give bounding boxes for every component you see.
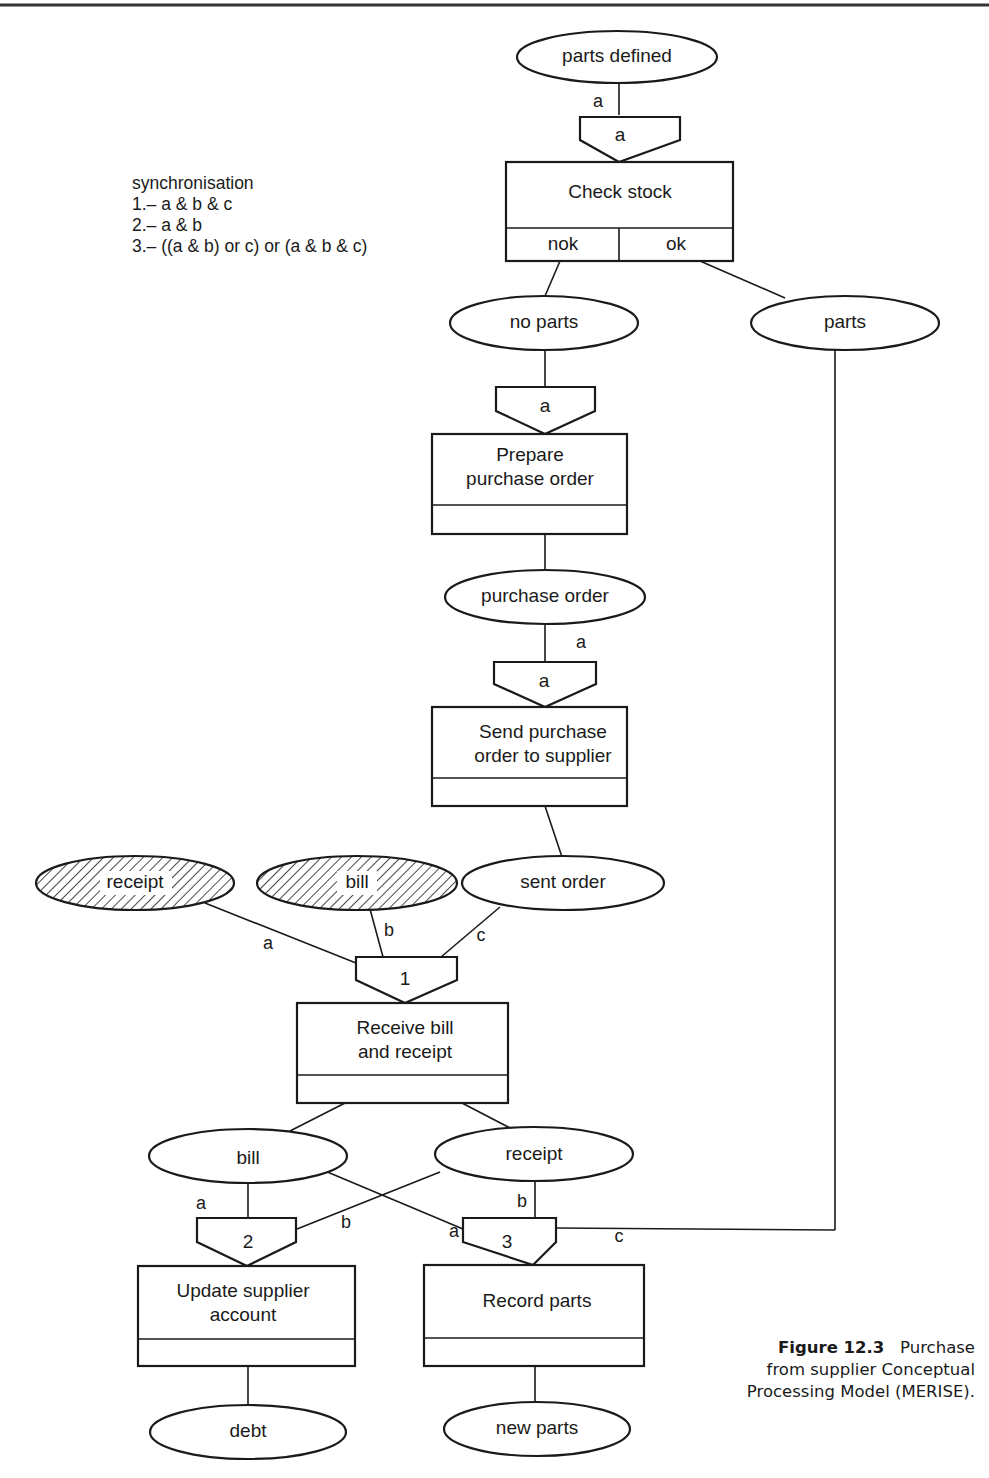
svg-text:sent order: sent order — [520, 871, 606, 892]
event-sent-order: sent order — [462, 856, 664, 910]
svg-text:Send purchase: Send purchase — [479, 721, 607, 742]
svg-text:Update supplier: Update supplier — [176, 1280, 310, 1301]
svg-text:c: c — [615, 1226, 624, 1246]
svg-text:parts: parts — [824, 311, 866, 332]
figure-caption: Figure 12.3 Purchase from supplier Conce… — [690, 1337, 975, 1403]
synchronisation-legend: synchronisation 1.– a & b & c 2.– a & b … — [132, 173, 367, 257]
svg-text:order to supplier: order to supplier — [474, 745, 612, 766]
operation-record-parts: Record parts — [424, 1265, 644, 1366]
operation-receive-bill-receipt: Receive bill and receipt — [297, 1003, 508, 1103]
svg-text:receipt: receipt — [505, 1143, 563, 1164]
event-receipt: receipt — [435, 1127, 633, 1181]
operation-check-stock: Check stock nok ok — [506, 162, 733, 261]
svg-text:Check stock: Check stock — [568, 181, 672, 202]
sync-2-update: 2 — [197, 1218, 296, 1266]
svg-text:bill: bill — [345, 871, 368, 892]
event-purchase-order: purchase order — [445, 570, 645, 624]
event-bill-external: bill — [257, 856, 457, 910]
svg-text:bill: bill — [236, 1147, 259, 1168]
svg-text:parts defined: parts defined — [562, 45, 672, 66]
legend-title: synchronisation — [132, 173, 367, 194]
event-no-parts: no parts — [450, 296, 638, 350]
svg-text:Prepare: Prepare — [496, 444, 564, 465]
svg-text:purchase order: purchase order — [481, 585, 609, 606]
event-bill: bill — [149, 1129, 347, 1183]
svg-text:and receipt: and receipt — [358, 1041, 453, 1062]
operation-send-purchase-order: Send purchase order to supplier — [432, 707, 627, 806]
operation-prepare-purchase-order: Prepare purchase order — [432, 434, 627, 534]
svg-text:1: 1 — [400, 968, 411, 989]
svg-text:a: a — [540, 395, 551, 416]
sync-3-record: 3 — [463, 1218, 556, 1265]
rule-ok: ok — [666, 233, 687, 254]
svg-text:debt: debt — [230, 1420, 268, 1441]
svg-text:Receive bill: Receive bill — [356, 1017, 453, 1038]
event-receipt-external: receipt — [36, 856, 234, 910]
legend-rule-1: 1.– a & b & c — [132, 194, 367, 215]
caption-line-1: Purchase — [900, 1338, 975, 1357]
svg-text:no parts: no parts — [510, 311, 579, 332]
svg-text:new parts: new parts — [496, 1417, 578, 1438]
rule-nok: nok — [548, 233, 579, 254]
svg-text:b: b — [341, 1212, 351, 1232]
svg-text:2: 2 — [243, 1231, 254, 1252]
event-parts: parts — [751, 296, 939, 350]
svg-text:a: a — [576, 632, 587, 652]
svg-text:receipt: receipt — [106, 871, 164, 892]
svg-text:a: a — [263, 933, 274, 953]
svg-text:Record parts: Record parts — [483, 1290, 592, 1311]
event-parts-defined: parts defined — [517, 31, 717, 83]
svg-text:a: a — [593, 91, 604, 111]
svg-text:a: a — [449, 1221, 460, 1241]
svg-text:b: b — [517, 1191, 527, 1211]
figure-number: Figure 12.3 — [778, 1338, 884, 1357]
svg-text:purchase order: purchase order — [466, 468, 594, 489]
svg-text:a: a — [196, 1193, 207, 1213]
operation-update-supplier-account: Update supplier account — [138, 1266, 355, 1366]
event-new-parts: new parts — [444, 1402, 630, 1456]
sync-prepare: a — [496, 387, 595, 434]
svg-text:c: c — [477, 925, 486, 945]
sync-send: a — [494, 662, 596, 707]
event-debt: debt — [150, 1405, 346, 1459]
sync-check-stock: a — [580, 117, 680, 162]
svg-text:3: 3 — [502, 1231, 513, 1252]
sync-1-receive: 1 — [356, 957, 457, 1003]
svg-text:a: a — [539, 670, 550, 691]
svg-text:a: a — [615, 124, 626, 145]
caption-line-3: Processing Model (MERISE). — [690, 1381, 975, 1403]
svg-text:account: account — [210, 1304, 277, 1325]
legend-rule-2: 2.– a & b — [132, 215, 367, 236]
svg-text:b: b — [384, 920, 394, 940]
legend-rule-3: 3.– ((a & b) or c) or (a & b & c) — [132, 236, 367, 257]
caption-line-2: from supplier Conceptual — [690, 1359, 975, 1381]
